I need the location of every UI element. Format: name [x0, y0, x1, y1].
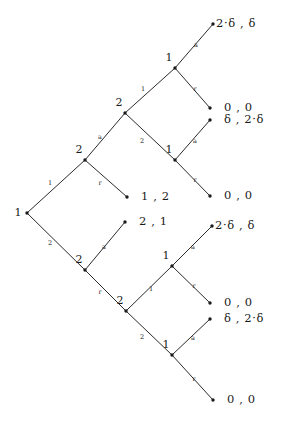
edge-label-e5: 1: [141, 85, 145, 93]
terminal-nodes-group: 2·δ , δ0 , 0δ , 2·δ0 , 01 , 22 , 12·δ , …: [123, 16, 264, 406]
tree-edge-e4: [85, 160, 127, 197]
decision-node-l2a: [83, 268, 86, 271]
edge-label-e2: 2: [48, 239, 52, 247]
terminal-node-t5: [125, 195, 128, 198]
edge-label-e17: a: [191, 334, 195, 342]
player-label-l1top: 1: [163, 249, 170, 262]
edge-label-e6: 2: [140, 137, 144, 145]
edge-label-e1: 1: [48, 179, 52, 187]
decision-node-l1top: [170, 264, 173, 267]
player-label-u2b: 2: [116, 96, 123, 109]
tree-edge-e3: [85, 113, 125, 160]
edge-label-e14: 2: [140, 333, 144, 341]
edge-label-e15: a: [191, 243, 195, 251]
edge-label-e7: a: [194, 41, 198, 49]
payoff-label-t4: 0 , 0: [224, 188, 253, 202]
edge-label-e3: a: [98, 133, 102, 141]
tree-edge-e1: [27, 160, 85, 213]
decision-node-root: [25, 211, 28, 214]
terminal-node-t9: [208, 317, 211, 320]
game-tree-svg: 12ar12ararar12arar 122112211 2·δ , δ0 , …: [0, 0, 283, 427]
player-label-l2a: 2: [76, 253, 83, 266]
edge-label-e12: r: [98, 288, 102, 296]
edge-label-e4: r: [98, 179, 102, 187]
payoff-label-t8: 0 , 0: [224, 295, 253, 309]
decision-node-l1bot: [170, 353, 173, 356]
payoff-label-t6: 2 , 1: [139, 214, 168, 228]
decision-node-l2b: [124, 309, 127, 312]
terminal-node-t7: [210, 224, 213, 227]
terminal-node-t3: [208, 118, 211, 121]
tree-edge-e5: [125, 68, 175, 113]
player-label-l1bot: 1: [163, 338, 170, 351]
terminal-node-t2: [208, 106, 211, 109]
terminal-node-t10: [211, 398, 214, 401]
player-label-root: 1: [15, 206, 22, 219]
tree-edge-e16: [172, 266, 210, 303]
terminal-node-t1: [211, 22, 214, 25]
edge-labels-group: 12ar12ararar12arar: [48, 41, 198, 383]
terminal-node-t6: [123, 220, 126, 223]
decision-nodes-group: 122112211: [15, 51, 177, 357]
decision-node-u2b: [123, 111, 126, 114]
decision-node-u1top: [173, 66, 176, 69]
game-tree-figure: 12ar12ararar12arar 122112211 2·δ , δ0 , …: [0, 0, 283, 427]
payoff-label-t7: 2·δ , δ: [215, 218, 255, 232]
decision-node-u1mid: [173, 158, 176, 161]
player-label-u2a: 2: [76, 143, 83, 156]
edge-label-e11: a: [102, 243, 106, 251]
edge-label-e16: r: [192, 282, 196, 290]
edge-label-e9: a: [193, 137, 197, 145]
edge-label-e13: 1: [149, 285, 153, 293]
payoff-label-t5: 1 , 2: [141, 189, 170, 203]
payoff-label-t1: 2·δ , δ: [216, 16, 256, 30]
payoff-label-t3: δ , 2·δ: [224, 112, 264, 126]
player-label-u1mid: 1: [166, 143, 173, 156]
payoff-label-t9: δ , 2·δ: [224, 311, 264, 325]
player-label-l2b: 2: [117, 294, 124, 307]
edges-group: [27, 24, 213, 400]
terminal-node-t8: [208, 301, 211, 304]
decision-node-u2a: [83, 158, 86, 161]
edge-label-e8: r: [193, 85, 197, 93]
payoff-label-t10: 0 , 0: [227, 392, 256, 406]
terminal-node-t4: [208, 194, 211, 197]
player-label-u1top: 1: [166, 51, 173, 64]
